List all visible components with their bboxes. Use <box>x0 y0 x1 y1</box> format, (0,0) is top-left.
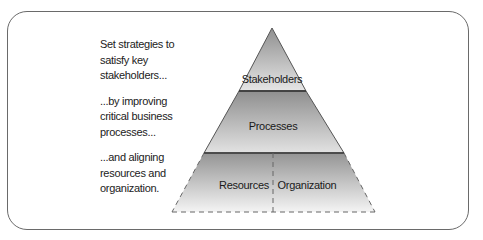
label-processes: Processes <box>249 120 298 132</box>
label-resources: Resources <box>219 179 270 191</box>
tier-foundation: Resources Organization <box>172 153 375 212</box>
label-organization: Organization <box>278 179 337 191</box>
pyramid-diagram: Stakeholders Processes Resources Organiz… <box>0 0 483 240</box>
tier-stakeholders: Stakeholders <box>239 28 306 91</box>
label-stakeholders: Stakeholders <box>242 73 303 85</box>
tier-processes: Processes <box>204 91 344 153</box>
